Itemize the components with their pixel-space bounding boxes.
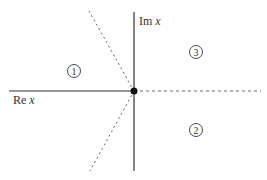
imag-axis-label: Im x (139, 14, 161, 28)
real-axis-label: Re x (13, 93, 35, 107)
region-3-marker: 3 (190, 46, 203, 59)
region-1-label: 1 (72, 66, 77, 77)
dashed-line-upper-left (89, 11, 134, 91)
region-2-label: 2 (194, 125, 199, 136)
region-1-marker: 1 (68, 65, 81, 78)
complex-plane-diagram: Im x Re x 1 2 3 (0, 0, 267, 180)
region-3-label: 3 (194, 47, 199, 58)
dashed-line-lower-left (90, 91, 134, 171)
region-2-marker: 2 (190, 124, 203, 137)
origin-point (131, 88, 138, 95)
